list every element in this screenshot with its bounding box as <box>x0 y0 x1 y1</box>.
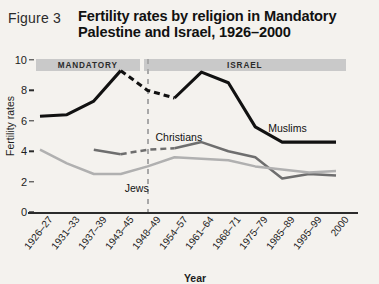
y-tick-label: 6 <box>21 115 27 127</box>
series-line-christians <box>121 148 175 154</box>
y-tick-label: 8 <box>21 84 27 96</box>
annotation-christians: Christians <box>155 131 202 143</box>
series-line-jews <box>40 150 336 174</box>
y-tick-label: 4 <box>21 145 27 157</box>
series-line-muslims <box>121 71 175 98</box>
figure-header: Figure 3 Fertility rates by religion in … <box>0 4 379 52</box>
series-line-christians <box>94 150 121 155</box>
y-axis-title: Fertility rates <box>4 96 16 156</box>
chart-plot-area: Fertility rates 0246810 MANDATORYISRAEL … <box>34 60 356 212</box>
y-tick-label: 10 <box>15 54 27 66</box>
figure-label: Figure 3 <box>8 10 61 26</box>
x-axis-title: Year <box>34 272 356 284</box>
annotation-muslims: Muslims <box>268 122 307 134</box>
y-tick-label: 0 <box>21 206 27 218</box>
y-tick-label: 2 <box>21 176 27 188</box>
figure-title: Fertility rates by religion in Mandatory… <box>78 8 374 40</box>
series-line-muslims <box>40 71 121 117</box>
